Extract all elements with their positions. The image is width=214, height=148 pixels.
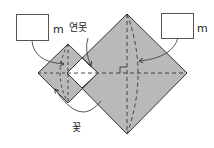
answer-box-left[interactable] bbox=[16, 14, 49, 41]
pond-label: 연못 bbox=[69, 23, 87, 33]
unit-label-left: m bbox=[53, 24, 64, 35]
unit-label-right: m bbox=[197, 23, 208, 34]
flower-label: 꽃 bbox=[72, 123, 81, 133]
answer-box-right[interactable] bbox=[161, 13, 194, 39]
